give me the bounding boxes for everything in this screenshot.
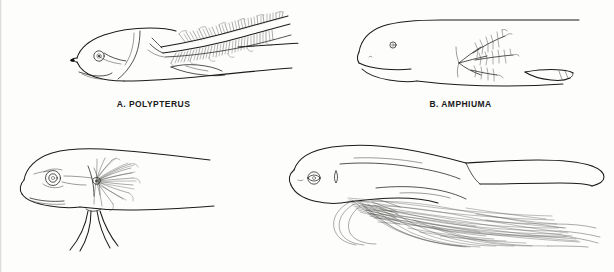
panel-urolophus: D. UROLOPHUS xyxy=(280,136,614,272)
caption-polypterus: A. POLYPTERUS xyxy=(0,99,307,109)
caption-amphiuma: B. AMPHIUMA xyxy=(307,99,614,109)
amphiuma-drawing xyxy=(307,0,614,100)
urolophus-drawing xyxy=(280,136,614,256)
polypterus-drawing xyxy=(0,0,307,100)
panel-scyllium: C. SCYLLIUM xyxy=(0,136,307,272)
panel-amphiuma: B. AMPHIUMA xyxy=(307,0,614,136)
panel-polypterus: A. POLYPTERUS xyxy=(0,0,307,136)
scyllium-drawing xyxy=(0,136,307,256)
figure-plate: A. POLYPTERUS xyxy=(0,0,614,272)
